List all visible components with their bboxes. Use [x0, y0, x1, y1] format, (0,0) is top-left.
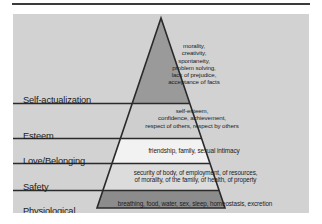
tier-label-esteem: Esteem: [23, 131, 54, 141]
tier-label-physiological: Physiological: [23, 206, 75, 213]
tier-label-love-belonging: Love/Belonging: [23, 156, 85, 166]
tier-content-physiological: breathing, food, water, sex, sleep, home…: [61, 200, 309, 207]
tier-label-safety: Safety: [23, 182, 48, 192]
tier-content-safety: security of body, of employment, of reso…: [73, 169, 309, 184]
top-divider-rule: [12, 3, 310, 5]
maslow-pyramid-figure: morality, creativity, spontaneity, probl…: [13, 14, 309, 213]
tier-label-self-actualization: Self-actualization: [23, 95, 91, 105]
figure-page: morality, creativity, spontaneity, probl…: [0, 0, 322, 224]
tier-content-self-actualization: morality, creativity, spontaneity, probl…: [139, 42, 249, 86]
tier-content-love-belonging: friendship, family, sexual intimacy: [89, 147, 299, 154]
tier-content-esteem: self-esteem, confidence, achievement, re…: [97, 107, 287, 129]
